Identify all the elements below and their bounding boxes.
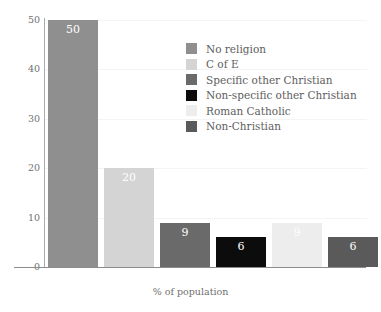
legend-item-specific-other-christian: Specific other Christian (186, 72, 357, 88)
bar-value-label: 20 (104, 172, 154, 184)
legend-item-label: Non-Christian (206, 121, 281, 132)
bar-chart: 50 40 30 20 10 0 50 20 9 6 9 6 % of popu… (0, 0, 381, 312)
bar-c-of-e: 20 (104, 168, 154, 267)
legend-item-c-of-e: C of E (186, 57, 357, 73)
bar-no-religion: 50 (48, 20, 98, 267)
legend-item-no-religion: No religion (186, 41, 357, 57)
legend-swatch-icon (186, 121, 197, 132)
bar-non-christian: 6 (328, 237, 378, 267)
legend-swatch-icon (186, 90, 197, 101)
bar-specific-other-christian: 9 (160, 223, 210, 267)
legend-item-non-specific-other-christian: Non-specific other Christian (186, 88, 357, 104)
legend-item-label: Specific other Christian (206, 75, 333, 86)
legend-item-label: Roman Catholic (206, 106, 291, 117)
legend-swatch-icon (186, 59, 197, 70)
legend-item-label: C of E (206, 59, 239, 70)
legend-swatch-icon (186, 43, 197, 54)
legend-item-non-christian: Non-Christian (186, 119, 357, 135)
bar-value-label: 6 (216, 241, 266, 253)
bar-non-specific-other-christian: 6 (216, 237, 266, 267)
bar-value-label: 50 (48, 24, 98, 36)
bar-value-label: 9 (272, 227, 322, 239)
x-axis-title: % of population (0, 286, 381, 297)
legend-item-label: No religion (206, 44, 266, 55)
legend-swatch-icon (186, 105, 197, 116)
bar-value-label: 9 (160, 227, 210, 239)
legend-swatch-icon (186, 74, 197, 85)
legend-item-label: Non-specific other Christian (206, 90, 357, 101)
legend-item-roman-catholic: Roman Catholic (186, 103, 357, 119)
chart-legend: No religion C of E Specific other Christ… (186, 41, 357, 134)
x-axis-line (14, 267, 366, 268)
bar-value-label: 6 (328, 241, 378, 253)
bar-roman-catholic: 9 (272, 223, 322, 267)
